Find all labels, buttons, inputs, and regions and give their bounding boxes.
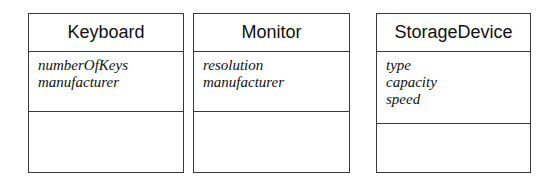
attributes-compartment: resolution manufacturer [194,51,349,112]
operations-compartment [377,123,530,172]
operations-compartment [29,111,183,172]
attributes-compartment: type capacity speed [377,51,530,124]
attribute: manufacturer [38,74,183,91]
attribute: resolution [203,57,349,74]
class-monitor: Monitor resolution manufacturer [193,13,350,173]
class-storagedevice: StorageDevice type capacity speed [376,13,531,173]
attributes-compartment: numberOfKeys manufacturer [29,51,183,112]
class-name: StorageDevice [377,14,530,52]
attribute: speed [386,91,530,108]
operations-compartment [194,111,349,172]
attribute: type [386,57,530,74]
attribute: manufacturer [203,74,349,91]
class-name: Monitor [194,14,349,52]
class-name: Keyboard [29,14,183,52]
attribute: capacity [386,74,530,91]
class-name-text: Monitor [241,22,301,43]
class-keyboard: Keyboard numberOfKeys manufacturer [28,13,184,173]
attribute: numberOfKeys [38,57,183,74]
class-name-text: Keyboard [67,22,144,43]
class-name-text: StorageDevice [394,22,512,43]
